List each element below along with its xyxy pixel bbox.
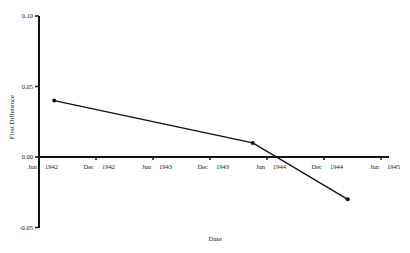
x-tick-month-label: Jun xyxy=(28,163,38,170)
y-axis-ticks: 0.100.050.00-0.05 xyxy=(19,12,39,231)
y-tick-label: 0.05 xyxy=(22,83,33,90)
x-axis-ticks: Jun1942Dec1942Jun1943Dec1943Jun1944Dec19… xyxy=(28,157,400,170)
y-tick-label: 0.00 xyxy=(22,153,33,160)
data-point-marker xyxy=(52,99,56,103)
x-tick-month-label: Jun xyxy=(370,163,380,170)
x-tick-year-label: 1942 xyxy=(102,163,115,170)
y-tick-label: -0.05 xyxy=(19,224,33,231)
y-axis-title: First Difference xyxy=(8,95,16,139)
x-tick-year-label: 1945 xyxy=(387,163,400,170)
x-tick-year-label: 1944 xyxy=(273,163,287,170)
x-tick-year-label: 1943 xyxy=(216,163,229,170)
x-tick-month-label: Dec xyxy=(312,163,323,170)
x-tick-year-label: 1942 xyxy=(45,163,58,170)
x-tick-month-label: Jun xyxy=(256,163,266,170)
series-line xyxy=(54,101,348,200)
x-tick-year-label: 1944 xyxy=(330,163,344,170)
x-tick-month-label: Dec xyxy=(84,163,95,170)
y-tick-label: 0.10 xyxy=(22,12,33,19)
x-tick-month-label: Dec xyxy=(198,163,209,170)
x-axis-title: Date xyxy=(208,235,221,243)
data-point-marker xyxy=(346,197,350,201)
x-tick-month-label: Jun xyxy=(142,163,152,170)
data-point-marker xyxy=(251,141,255,145)
x-tick-year-label: 1943 xyxy=(159,163,172,170)
data-series xyxy=(52,99,350,202)
line-chart: 0.100.050.00-0.05 Jun1942Dec1942Jun1943D… xyxy=(0,0,410,253)
